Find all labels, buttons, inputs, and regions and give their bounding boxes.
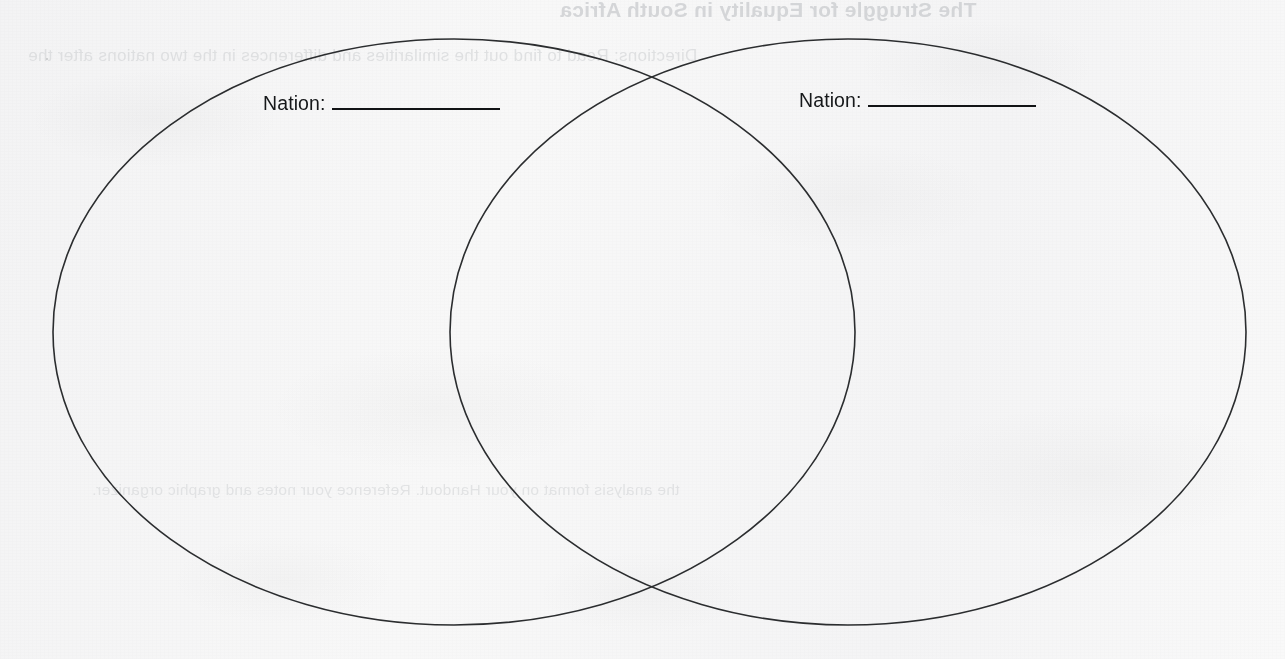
nation-label-left: Nation: bbox=[263, 92, 500, 115]
nation-answer-blank-right[interactable] bbox=[868, 105, 1036, 107]
nation-label-left-text: Nation: bbox=[263, 92, 326, 115]
venn-circle-right[interactable] bbox=[450, 39, 1246, 625]
venn-diagram bbox=[0, 0, 1285, 659]
nation-label-right: Nation: bbox=[799, 89, 1036, 112]
venn-circle-left[interactable] bbox=[53, 39, 855, 625]
nation-label-right-text: Nation: bbox=[799, 89, 862, 112]
nation-answer-blank-left[interactable] bbox=[332, 108, 500, 110]
worksheet-page: The Struggle for Equality in South Afric… bbox=[0, 0, 1285, 659]
